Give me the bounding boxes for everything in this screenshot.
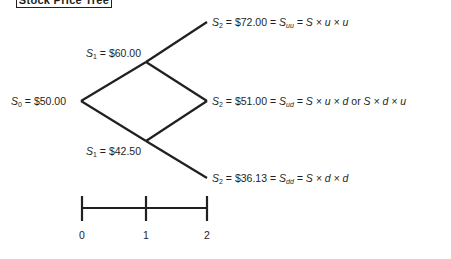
symbol: S [212,172,219,184]
node-s2-dd-label: S2 = $36.13 = Sdd = S × d × d [212,172,348,188]
branch-s0-up [81,62,146,101]
subscript: ud [286,101,294,108]
subscript: uu [286,22,294,29]
node-s0-label: S0 = $50.00 [11,95,66,111]
symbol: S [279,95,286,107]
node-s2-uu-label: S2 = $72.00 = Suu = S × u × u [212,16,348,32]
symbol: S [212,16,219,28]
branch-down-down [146,141,207,178]
formula: = S × u × u [294,16,349,28]
node-s1-down-label: S1 = $42.50 [86,145,141,161]
branch-up-up [146,22,207,62]
binomial-tree-lines [0,0,451,259]
value: = $36.13 = [223,172,279,184]
subscript: dd [286,178,294,185]
timeline-label-0: 0 [76,229,88,241]
formula: S × d × u [364,95,407,107]
timeline-label-2: 2 [201,229,213,241]
value: = $42.50 [97,145,141,157]
symbol: S [86,145,93,157]
node-s2-ud-label: S2 = $51.00 = Sud = S × u × d or S × d ×… [212,95,406,111]
timeline-label-1: 1 [140,229,152,241]
branch-s0-down [81,101,146,141]
symbol: S [212,95,219,107]
symbol: S [279,172,286,184]
branch-up-down [146,62,207,101]
node-s1-up-label: S1 = $60.00 [86,47,141,63]
formula: = S × u × d [294,95,349,107]
value: = $72.00 = [223,16,279,28]
symbol: S [86,47,93,59]
formula: = S × d × d [294,172,349,184]
branch-down-up [146,101,207,141]
value: = $51.00 = [223,95,279,107]
value: = $60.00 [97,47,141,59]
symbol: S [279,16,286,28]
value: = $50.00 [22,95,66,107]
or-text: or [348,95,363,107]
symbol: S [11,95,18,107]
